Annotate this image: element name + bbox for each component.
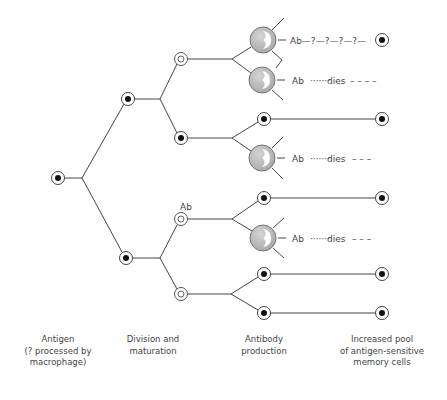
caption-division-line2: maturation	[113, 346, 193, 358]
dies-label-3: dies	[327, 234, 346, 244]
plasma-cell-2	[249, 67, 275, 93]
cell-gen1-top	[122, 93, 135, 106]
plasma-cell-1	[250, 27, 276, 53]
memory-cell-3	[376, 192, 389, 205]
plasma-cell-4	[250, 225, 276, 251]
caption-antibody-line2: production	[224, 346, 304, 358]
dashed-trail-2: – – –	[352, 154, 372, 164]
cell-gen3-d2	[258, 307, 271, 320]
caption-memory-line3: memory cells	[332, 357, 432, 369]
antibody-label-1: Ab	[292, 76, 304, 86]
cell-gen2-b	[175, 132, 188, 145]
caption-antigen-line2: (? processed by	[18, 346, 98, 358]
plasma-cell-3	[249, 145, 275, 171]
caption-antibody: Antibody production	[224, 334, 304, 357]
cell-gen1-bottom	[120, 252, 133, 265]
caption-division-line1: Division and	[113, 334, 193, 346]
caption-division: Division and maturation	[113, 334, 193, 357]
memory-cell-5	[376, 307, 389, 320]
antibody-label-3: Ab	[292, 234, 304, 244]
branch-lines	[64, 18, 376, 313]
dies-label-2: dies	[327, 154, 346, 164]
caption-antigen-line3: macrophage)	[18, 357, 98, 369]
plasma-cells	[249, 27, 276, 251]
cell-gen2-a	[175, 53, 188, 66]
antibody-question-chain: Ab—?—?—?—?—	[290, 36, 366, 46]
cell-gen3-b1	[258, 113, 271, 126]
antigen-cell	[52, 172, 65, 185]
dashed-trail-1: – – – –	[350, 76, 377, 86]
dashed-trail-3: – – –	[352, 234, 372, 244]
caption-memory-line1: Increased pool	[332, 334, 432, 346]
antibody-label-2: Ab	[292, 154, 304, 164]
cell-gen2-c	[175, 213, 188, 226]
caption-memory: Increased pool of antigen-sensitive memo…	[332, 334, 432, 369]
memory-cell-2	[376, 113, 389, 126]
cell-gen3-d1	[258, 268, 271, 281]
memory-cell-4	[376, 268, 389, 281]
antibody-small-label: Ab	[180, 202, 192, 212]
caption-antigen: Antigen (? processed by macrophage)	[18, 334, 98, 369]
caption-antibody-line1: Antibody	[224, 334, 304, 346]
cell-gen2-d	[175, 288, 188, 301]
memory-cell-1	[376, 34, 389, 47]
dies-label-1: dies	[327, 76, 346, 86]
maturing-cells	[175, 53, 188, 301]
cell-gen3-c1	[258, 192, 271, 205]
caption-memory-line2: of antigen-sensitive	[332, 346, 432, 358]
caption-antigen-line1: Antigen	[18, 334, 98, 346]
